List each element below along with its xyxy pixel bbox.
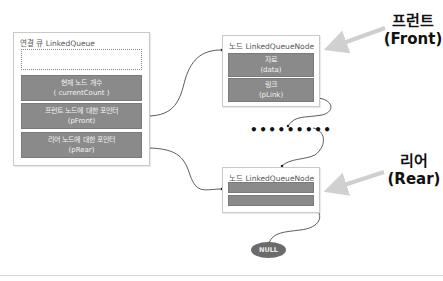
data-label: 자료	[229, 55, 313, 65]
front-label: 프런트 (Front)	[383, 12, 443, 48]
prear-field: 리어 노드에 대한 포인터 (pRear)	[21, 132, 142, 158]
front-label-ko: 프런트	[383, 12, 443, 30]
pfront-label: 프런트 노드에 대한 포인터	[22, 106, 141, 116]
linked-queue-title: 연결 큐 LinkedQueue	[20, 37, 95, 48]
pfront-field: 프런트 노드에 대한 포인터 (pFront)	[21, 103, 142, 129]
bottom-divider	[0, 275, 443, 276]
current-count-field: 현재 노드 개수 ( currentCount )	[21, 75, 142, 101]
front-node-box: 노드 LinkedQueueNode 자료 (data) 링크 (pLink)	[222, 35, 320, 107]
data-name: (data)	[229, 65, 313, 75]
current-count-label: 현재 노드 개수	[22, 78, 141, 88]
rear-label-ko: 리어	[385, 152, 443, 170]
linked-queue-box: 연결 큐 LinkedQueue 현재 노드 개수 ( currentCount…	[13, 32, 150, 166]
pfront-name: (pFront)	[22, 116, 141, 126]
front-label-en: (Front)	[383, 30, 443, 48]
rear-plink-field	[228, 195, 314, 206]
plink-name: (pLink)	[229, 90, 313, 100]
rear-label-en: (Rear)	[385, 170, 443, 188]
rear-node-box: 노드 LinkedQueueNode	[222, 167, 320, 213]
current-count-name: ( currentCount )	[22, 88, 141, 98]
null-node: NULL	[251, 242, 286, 258]
data-field: 자료 (data)	[228, 53, 314, 77]
plink-label: 링크	[229, 80, 313, 90]
front-node-title: 노드 LinkedQueueNode	[229, 40, 314, 51]
rear-label: 리어 (Rear)	[385, 152, 443, 188]
empty-field	[21, 49, 142, 70]
ellipsis-dots: •••••••••	[250, 123, 333, 137]
rear-data-field	[228, 182, 314, 193]
prear-name: (pRear)	[22, 145, 141, 155]
prear-label: 리어 노드에 대한 포인터	[22, 135, 141, 145]
plink-field: 링크 (pLink)	[228, 78, 314, 102]
